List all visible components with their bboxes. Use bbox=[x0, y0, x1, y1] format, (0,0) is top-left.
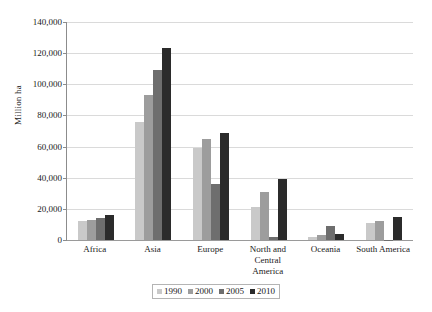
bar bbox=[153, 70, 162, 240]
y-tick-label: 100,000 bbox=[33, 79, 62, 89]
y-tick-label: 140,000 bbox=[33, 17, 62, 27]
y-tick-label: 80,000 bbox=[37, 110, 62, 120]
bar-group bbox=[135, 22, 171, 240]
x-axis-label: Africa bbox=[66, 244, 124, 290]
legend-item[interactable]: 2010 bbox=[250, 286, 275, 297]
y-tick-label: 60,000 bbox=[37, 142, 62, 152]
y-axis-title: Million ha bbox=[13, 65, 23, 145]
legend-label: 1990 bbox=[164, 286, 182, 297]
bar bbox=[162, 48, 171, 240]
legend-item[interactable]: 2000 bbox=[188, 286, 213, 297]
bar bbox=[375, 221, 384, 240]
legend-item[interactable]: 2005 bbox=[219, 286, 244, 297]
bar-chart: Million ha 020,00040,00060,00080,000100,… bbox=[0, 0, 432, 312]
y-tick-mark bbox=[63, 240, 67, 241]
bar bbox=[144, 95, 153, 240]
bar-group bbox=[366, 22, 402, 240]
plot-area: 020,00040,00060,00080,000100,000120,0001… bbox=[66, 22, 413, 240]
x-axis-label: Oceania bbox=[297, 244, 355, 290]
legend-item[interactable]: 1990 bbox=[157, 286, 182, 297]
bar bbox=[78, 221, 87, 240]
bar-group bbox=[78, 22, 114, 240]
y-tick-label: 0 bbox=[58, 235, 63, 245]
bar bbox=[317, 235, 326, 240]
x-axis-label: South America bbox=[354, 244, 412, 290]
bar bbox=[366, 223, 375, 240]
bar bbox=[105, 215, 114, 240]
bar bbox=[278, 179, 287, 240]
bar bbox=[193, 148, 202, 240]
y-tick-label: 40,000 bbox=[37, 173, 62, 183]
legend-swatch bbox=[157, 289, 162, 294]
bar bbox=[335, 234, 344, 240]
bar bbox=[393, 217, 402, 240]
legend-swatch bbox=[188, 289, 193, 294]
bar bbox=[135, 122, 144, 240]
bar bbox=[220, 133, 229, 240]
bar-group bbox=[193, 22, 229, 240]
bar bbox=[326, 226, 335, 240]
bar bbox=[251, 207, 260, 240]
y-tick-label: 20,000 bbox=[37, 204, 62, 214]
legend-label: 2005 bbox=[226, 286, 244, 297]
bar-group bbox=[308, 22, 344, 240]
y-tick-label: 120,000 bbox=[33, 48, 62, 58]
bar bbox=[269, 237, 278, 240]
legend-swatch bbox=[219, 289, 224, 294]
bar bbox=[308, 237, 317, 240]
bar bbox=[260, 192, 269, 240]
chart-legend: 1990200020052010 bbox=[152, 284, 280, 299]
gridline bbox=[67, 240, 413, 241]
bar bbox=[211, 184, 220, 240]
legend-label: 2000 bbox=[195, 286, 213, 297]
bar bbox=[87, 220, 96, 240]
bar-group bbox=[251, 22, 287, 240]
bar-groups bbox=[67, 22, 413, 240]
bar bbox=[96, 218, 105, 240]
legend-label: 2010 bbox=[257, 286, 275, 297]
legend-swatch bbox=[250, 289, 255, 294]
bar bbox=[202, 139, 211, 240]
